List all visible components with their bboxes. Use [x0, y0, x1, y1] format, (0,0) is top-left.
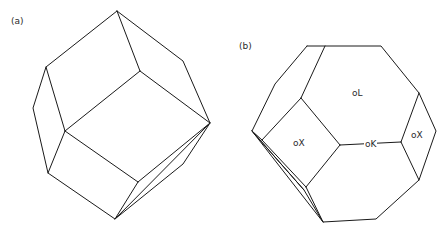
outline-b — [252, 46, 436, 222]
face-label-oK: oK — [364, 140, 377, 149]
rhombic-dodecahedron-figure — [33, 11, 210, 219]
outline-a — [33, 11, 210, 219]
face-label-oX-right: oX — [411, 131, 423, 140]
truncated-octahedron-figure — [252, 46, 436, 222]
face-label-oL: oL — [352, 89, 363, 98]
face-label-oX-left: oX — [293, 139, 305, 148]
diagram-canvas — [0, 0, 448, 230]
